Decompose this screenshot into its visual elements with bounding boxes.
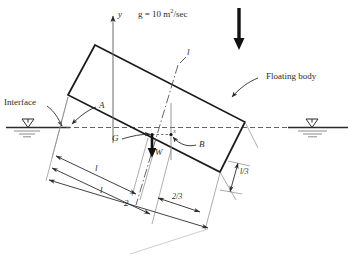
interface-label: Interface [4,98,36,107]
floating-body-label: Floating body [266,72,316,81]
point-b-leader [173,137,196,146]
gravity-label-prefix: g = 10 m [138,9,170,19]
point-a-label: A [99,101,105,110]
point-a-leader [72,107,96,124]
dimension-two-thirds-label: 2/3 [172,193,182,201]
gravity-arrow [234,8,245,50]
centerline-label-tick [180,57,186,63]
floating-body-leader [232,78,258,97]
water-level-icon-left [22,119,34,128]
dimension-upper-label: l [95,164,98,173]
centerline-label: l [187,48,190,57]
gravity-label-suffix: /sec [173,9,187,19]
dimension-one-third-label: l/3 [240,168,248,176]
dimension-extension-lines [46,97,258,230]
point-g-label: G [112,134,119,143]
water-surface-right [288,128,348,137]
water-level-icon-right [306,119,318,128]
one-third-extension-top [228,161,250,166]
weight-label: W [155,148,163,157]
y-axis-label: y [118,10,122,19]
diagram-canvas: g = 10 m2/sec y Interface Floating body … [0,0,352,259]
gravity-label: g = 10 m2/sec [138,8,187,19]
small-axis-label: x [173,128,176,135]
dimension-lower-label: 2 [124,199,129,208]
stray-baseline [130,229,208,254]
water-surface-left [6,128,70,137]
dimension-line-one-third [230,163,238,192]
dimension-middle-label: l [100,186,103,195]
point-b-label: B [199,140,205,149]
interface-leader [47,106,62,126]
